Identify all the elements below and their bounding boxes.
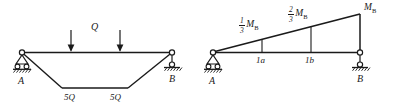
fraction-two-thirds: 2 3 xyxy=(288,6,294,23)
figure-root: Q A B 5Q 5Q 1 3 MB 2 3 MB MB 1a 1b A B xyxy=(0,0,395,111)
moment-symbol-group: MB xyxy=(246,20,258,31)
station-label-1a: 1a xyxy=(256,56,265,65)
moment-symbol-group: MB xyxy=(295,9,307,20)
moment-symbol: M xyxy=(295,8,303,18)
left-inclined-member xyxy=(22,53,62,89)
load-label-Q: Q xyxy=(91,22,98,32)
moment-subscript: B xyxy=(254,24,258,31)
support-label-B-right: B xyxy=(357,74,363,84)
figure-canvas xyxy=(0,0,395,111)
peak-moment-symbol: M xyxy=(364,2,372,12)
support-label-B-left: B xyxy=(169,74,175,84)
moment-subscript: B xyxy=(303,13,307,20)
moment-symbol: M xyxy=(246,19,254,29)
ordinate-label-one-third-MB: 1 3 MB xyxy=(239,17,259,34)
ordinate-label-two-thirds-MB: 2 3 MB xyxy=(288,6,308,23)
fraction-denominator: 3 xyxy=(239,25,245,34)
support-label-A-left: A xyxy=(18,76,24,86)
fraction-numerator: 2 xyxy=(288,6,294,14)
left-diagram-group xyxy=(13,30,182,88)
right-diagram-group xyxy=(204,14,370,73)
station-label-1b: 1b xyxy=(305,56,314,65)
moment-slope-line xyxy=(213,14,360,52)
load-arrow-right xyxy=(117,30,124,52)
load-arrow-left xyxy=(68,30,75,52)
fraction-numerator: 1 xyxy=(239,17,245,25)
fraction-denominator: 3 xyxy=(288,14,294,23)
support-label-A-right: A xyxy=(209,76,215,86)
fraction-one-third: 1 3 xyxy=(239,17,245,34)
member-label-left-5Q: 5Q xyxy=(64,93,75,102)
peak-moment-label-MB: MB xyxy=(364,3,376,14)
peak-moment-subscript: B xyxy=(372,7,376,14)
right-diagram-support-A xyxy=(204,50,222,73)
left-support-A xyxy=(13,50,31,73)
member-label-right-5Q: 5Q xyxy=(110,93,121,102)
